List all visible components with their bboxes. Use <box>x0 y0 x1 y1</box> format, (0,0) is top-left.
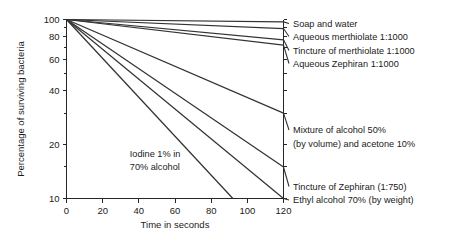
bacteria-survival-line-chart: 1008060402010 020406080100120 Time in se… <box>0 0 454 246</box>
series-label-0: Soap and water <box>293 19 357 29</box>
series-label-2: Tincture of merthiolate 1:1000 <box>293 46 415 56</box>
y-axis-title: Percentage of surviving bacteria <box>15 40 26 176</box>
series-label-6: Ethyl alcohol 70% (by weight) <box>293 195 414 205</box>
series-label-3: Aqueous Zephiran 1:1000 <box>293 59 399 69</box>
x-tick-label-60: 60 <box>170 205 181 216</box>
x-tick-label-20: 20 <box>97 205 108 216</box>
series-label-5: Tincture of Zephiran (1:750) <box>293 182 407 192</box>
y-tick-label-100: 100 <box>44 14 60 25</box>
x-tick-label-80: 80 <box>206 205 217 216</box>
y-tick-label-20: 20 <box>49 139 60 150</box>
x-tick-label-100: 100 <box>239 205 255 216</box>
y-tick-label-40: 40 <box>49 85 60 96</box>
x-tick-label-40: 40 <box>134 205 145 216</box>
y-tick-label-10: 10 <box>49 193 60 204</box>
y-tick-label-80: 80 <box>49 31 60 42</box>
series-label-1: Aqueous merthiolate 1:1000 <box>293 32 408 42</box>
annotation-0-line1: 70% alcohol <box>130 162 180 172</box>
y-tick-label-60: 60 <box>49 54 60 65</box>
x-tick-label-120: 120 <box>276 205 292 216</box>
series-label-4-line1: (by volume) and acetone 10% <box>293 139 415 149</box>
x-tick-label-0: 0 <box>64 205 69 216</box>
annotation-0-line0: Iodine 1% in <box>130 149 181 159</box>
series-label-4-line0: Mixture of alcohol 50% <box>293 125 386 135</box>
x-axis-title: Time in seconds <box>141 219 210 230</box>
figure-container: 1008060402010 020406080100120 Time in se… <box>0 0 454 246</box>
